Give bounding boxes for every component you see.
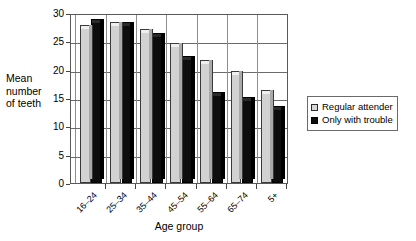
category-separator [106, 15, 107, 183]
bar-only-with-trouble [122, 24, 133, 183]
category-separator [257, 15, 258, 183]
bar-side-face [281, 106, 285, 179]
bar-side-face [209, 60, 213, 179]
bar-only-with-trouble [272, 108, 283, 183]
bar-regular-attender [200, 62, 211, 183]
x-axis-tick-mark [286, 184, 287, 189]
x-axis-tick-mark [256, 184, 257, 189]
y-axis-tick-label: 0 [40, 179, 64, 189]
bar-only-with-trouble [91, 21, 102, 183]
bar-side-face [119, 22, 123, 179]
bar-side-face [270, 90, 274, 179]
bar-only-with-trouble [242, 99, 253, 183]
category-separator [136, 15, 137, 183]
x-axis-title: Age group [70, 220, 288, 232]
x-axis-tick-mark [226, 184, 227, 189]
bar-side-face [251, 97, 255, 179]
bar-side-face [191, 56, 195, 179]
bar-side-face [161, 33, 165, 179]
legend-item-regular-attender: Regular attender [311, 101, 393, 113]
legend-item-only-with-trouble: Only with trouble [311, 114, 393, 126]
y-axis-tick-label: 30 [40, 9, 64, 19]
x-axis-tick-mark [135, 184, 136, 189]
bar-side-face [179, 43, 183, 179]
bar-regular-attender [231, 73, 242, 183]
x-axis-tick-mark [196, 184, 197, 189]
bar-chart-figure: Mean number of teeth 051015202530 16–242… [0, 0, 416, 241]
legend-label-only-with-trouble: Only with trouble [322, 114, 393, 126]
bar-regular-attender [170, 45, 181, 183]
x-axis-tick-mark [105, 184, 106, 189]
bar-side-face [221, 92, 225, 179]
bar-only-with-trouble [152, 35, 163, 183]
bar-side-face [149, 29, 153, 179]
y-axis-tick-label: 25 [40, 37, 64, 47]
category-separator [166, 15, 167, 183]
category-separator [197, 15, 198, 183]
axis-inner-rule [75, 15, 76, 183]
dark-square-icon [311, 117, 318, 124]
x-axis-tick-mark [165, 184, 166, 189]
bar-side-face [130, 22, 134, 179]
y-axis-tick-label: 10 [40, 122, 64, 132]
plot-area [70, 14, 288, 184]
bar-only-with-trouble [182, 58, 193, 183]
y-axis-tick-label: 15 [40, 94, 64, 104]
bar-side-face [100, 19, 104, 179]
bar-side-face [239, 71, 243, 179]
bar-only-with-trouble [212, 94, 223, 183]
bar-regular-attender [80, 27, 91, 183]
bar-regular-attender [140, 31, 151, 183]
chart-legend: Regular attender Only with trouble [307, 96, 398, 131]
y-axis-tick-label: 20 [40, 66, 64, 76]
y-axis-tick-mark [66, 184, 70, 185]
y-axis-tick-label: 5 [40, 151, 64, 161]
category-separator [227, 15, 228, 183]
bar-side-face [89, 25, 93, 179]
bar-regular-attender [110, 24, 121, 183]
light-square-icon [311, 104, 318, 111]
legend-label-regular-attender: Regular attender [322, 101, 393, 113]
bar-regular-attender [261, 92, 272, 183]
